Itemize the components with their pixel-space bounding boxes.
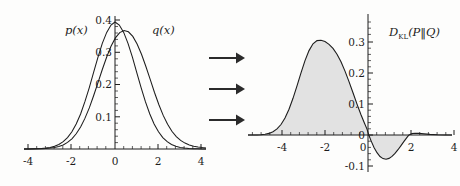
right-ytick-1: 0.2 — [348, 67, 365, 79]
densities-panel: p(x) q(x) -4 -2 0 2 4 0.1 0.2 0.3 0.4 — [23, 14, 206, 167]
left-ytick-0: 0.1 — [95, 111, 112, 123]
kl-label-main: D — [388, 25, 398, 39]
arrow-middle — [209, 84, 245, 95]
left-xtick-4: 4 — [198, 155, 205, 167]
left-xtick-1: -2 — [66, 155, 76, 167]
right-ytick-0: 0.3 — [348, 36, 365, 48]
kl-label-args: (P‖Q) — [408, 25, 440, 40]
left-ytick-1: 0.2 — [95, 78, 112, 90]
negative-area-fill — [369, 135, 409, 159]
arrow-bottom — [209, 115, 245, 126]
kl-label-sub: KL — [398, 33, 408, 41]
curve-label-q: q(x) — [152, 23, 175, 37]
kl-axis-label: DKL(P‖Q) — [388, 25, 440, 41]
right-ytick-4: -0.1 — [345, 160, 365, 172]
right-ytick-3: 0 — [358, 129, 365, 141]
curve-label-p: p(x) — [65, 23, 88, 37]
left-xtick-0: -4 — [23, 155, 34, 167]
right-xtick-4: 4 — [451, 141, 458, 153]
left-xtick-2: 0 — [112, 155, 119, 167]
right-xtick-0: -4 — [277, 141, 288, 153]
kl-integrand-panel: DKL(P‖Q) -4 -2 0 2 4 0.3 0.2 0.1 0 -0.1 — [248, 14, 458, 172]
left-xtick-3: 2 — [155, 155, 162, 167]
right-xtick-1: -2 — [320, 141, 330, 153]
kl-divergence-figure: p(x) q(x) -4 -2 0 2 4 0.1 0.2 0.3 0.4 — [0, 0, 460, 186]
right-ytick-2: 0.1 — [348, 98, 365, 110]
left-ytick-2: 0.3 — [95, 46, 112, 58]
left-ytick-3: 0.4 — [95, 14, 112, 26]
right-xtick-2: 0 — [360, 141, 367, 153]
right-xtick-3: 2 — [408, 141, 415, 153]
arrow-top — [209, 53, 245, 64]
arrow-group — [209, 53, 245, 126]
svg-text:DKL(P‖Q): DKL(P‖Q) — [388, 25, 440, 41]
